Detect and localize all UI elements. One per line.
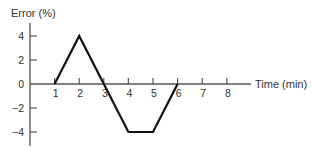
x-axis-title: Time (min) xyxy=(255,78,307,90)
y-axis-title: Error (%) xyxy=(11,7,56,19)
y-tick-label: 4 xyxy=(18,30,24,42)
x-tick-label: 2 xyxy=(77,87,83,99)
x-ticks: 12345678 xyxy=(53,78,231,99)
x-tick-label: 6 xyxy=(176,87,182,99)
y-tick-label: −4 xyxy=(12,126,24,138)
x-tick-label: 4 xyxy=(126,87,132,99)
y-tick-label: 2 xyxy=(18,54,24,66)
x-tick-label: 5 xyxy=(151,87,157,99)
y-tick-label: −2 xyxy=(12,102,24,114)
error-vs-time-chart: Error (%) Time (min) 420−2−4 12345678 xyxy=(0,0,312,147)
x-tick-label: 7 xyxy=(200,87,206,99)
x-tick-label: 1 xyxy=(53,87,59,99)
y-tick-label: 0 xyxy=(18,78,24,90)
x-tick-label: 8 xyxy=(225,87,231,99)
